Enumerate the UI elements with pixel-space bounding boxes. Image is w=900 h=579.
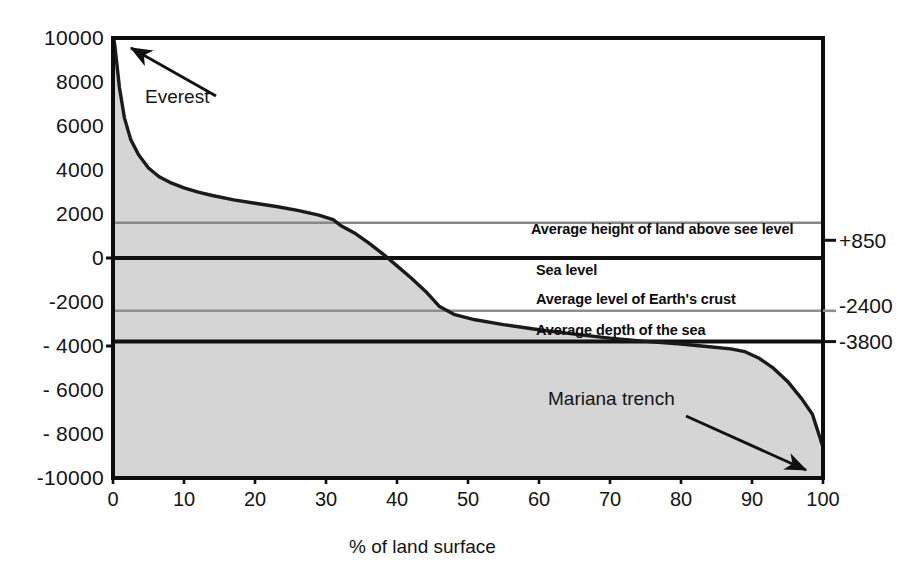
x-tick-label: 90 [727,488,777,511]
x-tick-label: 10 [159,488,209,511]
x-tick-label: 80 [656,488,706,511]
right-value-sea-depth: -3800 [839,330,893,354]
callout-everest: Everest [145,86,209,108]
x-tick-label: 30 [301,488,351,511]
x-tick-label: 70 [585,488,635,511]
x-tick-label: 100 [798,488,848,511]
x-tick-label: 50 [443,488,493,511]
hypsographic-curve-figure: 10000 8000 6000 4000 2000 0 -2000 - 4000… [0,0,900,579]
annotation-crust-level: Average level of Earth's crust [536,291,736,307]
x-tick-label: 40 [372,488,422,511]
x-tick-label: 60 [514,488,564,511]
x-axis-title: % of land surface [349,536,496,558]
annotation-sea-depth: Average depth of the sea [536,322,706,338]
x-tick-label: 20 [230,488,280,511]
right-value-land-height: +850 [839,229,886,253]
annotation-land-height: Average height of land above see level [531,221,793,237]
callout-mariana-trench: Mariana trench [548,388,675,410]
right-value-crust-level: -2400 [839,294,893,318]
annotation-sea-level: Sea level [536,262,597,278]
x-tick-label: 0 [88,488,138,511]
